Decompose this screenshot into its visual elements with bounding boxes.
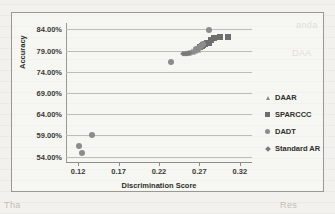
y-axis-tick-label: 64.00% bbox=[37, 110, 62, 119]
gridline bbox=[66, 114, 252, 115]
plot-area: 54.00%59.00%64.00%69.00%74.00%79.00%84.0… bbox=[66, 23, 252, 163]
y-axis-tick-label: 84.00% bbox=[37, 25, 62, 34]
gridline bbox=[66, 29, 252, 30]
legend-item-label: SPARCCC bbox=[275, 110, 312, 119]
y-axis-tick-label: 74.00% bbox=[37, 67, 62, 76]
x-axis-tick-mark bbox=[159, 163, 160, 166]
x-axis-tick-label: 0.17 bbox=[111, 167, 126, 176]
data-point-dadt bbox=[89, 132, 95, 138]
data-point-dadt bbox=[76, 143, 82, 149]
y-axis-title: Accuracy bbox=[18, 35, 27, 69]
legend-item-daar[interactable]: DAAR bbox=[264, 93, 320, 102]
legend-item-dadt[interactable]: DADT bbox=[264, 127, 320, 136]
x-axis-tick-mark bbox=[78, 163, 79, 166]
x-axis-tick-mark bbox=[240, 163, 241, 166]
x-axis-tick-label: 0.32 bbox=[233, 167, 248, 176]
triangle-marker-icon bbox=[264, 96, 271, 100]
data-point-sparccc bbox=[217, 34, 223, 40]
x-axis-tick-mark bbox=[119, 163, 120, 166]
x-axis-tick-label: 0.27 bbox=[192, 167, 207, 176]
scatter-chart: Accuracy Discrimination Score 54.00%59.0… bbox=[11, 12, 324, 192]
gridline bbox=[66, 93, 252, 94]
legend-item-label: DADT bbox=[275, 127, 296, 136]
square-marker-icon bbox=[264, 112, 271, 118]
x-axis-title: Discrimination Score bbox=[66, 181, 252, 190]
y-axis-tick-label: 59.00% bbox=[37, 131, 62, 140]
gridline bbox=[66, 157, 252, 158]
y-axis-tick-label: 69.00% bbox=[37, 89, 62, 98]
x-axis-tick-mark bbox=[199, 163, 200, 166]
gridline bbox=[66, 51, 252, 52]
data-point-dadt bbox=[200, 41, 206, 47]
legend-item-label: DAAR bbox=[275, 93, 297, 102]
x-axis-tick-label: 0.12 bbox=[71, 167, 86, 176]
chart-legend: DAARSPARCCCDADTStandard AR bbox=[264, 93, 320, 153]
data-point-dadt bbox=[168, 59, 174, 65]
legend-item-standard-ar[interactable]: Standard AR bbox=[264, 144, 320, 153]
circle-marker-icon bbox=[264, 129, 271, 135]
data-point-sparccc bbox=[225, 34, 231, 40]
data-point-standard-ar bbox=[186, 51, 190, 55]
legend-item-label: Standard AR bbox=[275, 144, 320, 153]
data-point-dadt bbox=[79, 150, 85, 156]
y-axis-tick-label: 54.00% bbox=[37, 152, 62, 161]
background-ghost-text-3: Tha bbox=[4, 200, 21, 210]
data-point-dadt bbox=[206, 27, 212, 33]
y-axis-tick-label: 79.00% bbox=[37, 46, 62, 55]
legend-item-sparccc[interactable]: SPARCCC bbox=[264, 110, 320, 119]
gridline bbox=[66, 72, 252, 73]
background-ghost-text-4: Res bbox=[280, 200, 297, 210]
diamond-marker-icon bbox=[264, 147, 271, 151]
x-axis-tick-label: 0.22 bbox=[152, 167, 167, 176]
